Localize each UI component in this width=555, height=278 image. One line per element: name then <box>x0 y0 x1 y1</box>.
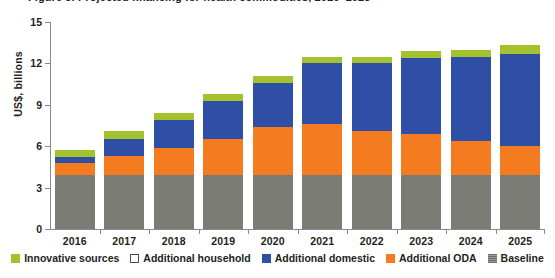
x-tick-mark <box>544 229 545 234</box>
x-tick-label: 2019 <box>199 235 249 247</box>
x-tick-label: 2022 <box>347 235 397 247</box>
y-tick-label: 15 <box>30 16 42 28</box>
chart-legend: Innovative sourcesAdditional householdAd… <box>0 252 555 264</box>
bar-2022[interactable] <box>352 57 392 230</box>
bar-segment-baseline <box>203 175 243 229</box>
bar-segment-baseline <box>302 175 342 229</box>
bar-segment-innovative-sources <box>154 113 194 120</box>
y-tick-label: 6 <box>36 140 42 152</box>
bar-segment-additional-oda <box>451 141 491 176</box>
x-tick-label: 2020 <box>248 235 298 247</box>
bar-segment-baseline <box>154 175 194 229</box>
bar-segment-innovative-sources <box>253 76 293 83</box>
legend-label: Additional domestic <box>275 252 375 264</box>
legend-label: Additional household <box>143 252 250 264</box>
bar-segment-baseline <box>253 175 293 229</box>
bar-segment-additional-domestic <box>352 63 392 131</box>
x-tick-mark <box>248 229 249 234</box>
bar-segment-baseline <box>104 175 144 229</box>
legend-swatch-icon <box>488 254 497 263</box>
x-tick-mark <box>100 229 101 234</box>
y-tick-mark <box>45 105 50 106</box>
bar-2021[interactable] <box>302 57 342 230</box>
y-tick-mark <box>45 22 50 23</box>
legend-item-additional-household[interactable]: Additional household <box>130 252 250 264</box>
x-tick-mark <box>298 229 299 234</box>
legend-swatch-icon <box>262 254 271 263</box>
bar-segment-additional-domestic <box>500 54 540 146</box>
x-tick-mark <box>397 229 398 234</box>
bar-segment-additional-domestic <box>253 83 293 127</box>
x-tick-mark <box>149 229 150 234</box>
bar-segment-additional-oda <box>55 163 95 175</box>
bar-segment-baseline <box>500 175 540 229</box>
x-tick-label: 2021 <box>298 235 348 247</box>
bar-segment-innovative-sources <box>451 50 491 57</box>
y-tick-label: 0 <box>36 223 42 235</box>
legend-item-additional-domestic[interactable]: Additional domestic <box>262 252 375 264</box>
bar-segment-innovative-sources <box>352 57 392 64</box>
legend-item-additional-oda[interactable]: Additional ODA <box>386 252 477 264</box>
y-tick-mark <box>45 188 50 189</box>
x-tick-mark <box>347 229 348 234</box>
legend-swatch-icon <box>130 254 139 263</box>
stacked-bar-chart: US$, billions 03691215 20162017201820192… <box>0 0 555 248</box>
bar-segment-baseline <box>451 175 491 229</box>
bar-segment-additional-domestic <box>104 139 144 156</box>
legend-label: Innovative sources <box>24 252 119 264</box>
legend-label: Additional ODA <box>399 252 477 264</box>
bar-segment-innovative-sources <box>104 131 144 139</box>
bar-2019[interactable] <box>203 94 243 229</box>
bar-2017[interactable] <box>104 131 144 229</box>
bar-segment-baseline <box>401 175 441 229</box>
bar-segment-baseline <box>55 175 95 229</box>
y-tick-mark <box>45 229 50 230</box>
y-tick-mark <box>45 146 50 147</box>
bar-segment-innovative-sources <box>401 51 441 58</box>
bar-segment-innovative-sources <box>55 150 95 157</box>
x-tick-label: 2023 <box>397 235 447 247</box>
legend-label: Baseline <box>501 252 544 264</box>
x-tick-label: 2024 <box>446 235 496 247</box>
y-tick-label: 3 <box>36 182 42 194</box>
bar-segment-additional-oda <box>203 139 243 175</box>
bar-segment-additional-domestic <box>55 157 95 163</box>
bar-2018[interactable] <box>154 113 194 229</box>
bar-segment-additional-domestic <box>401 58 441 134</box>
y-tick-mark <box>45 63 50 64</box>
legend-item-baseline[interactable]: Baseline <box>488 252 544 264</box>
bar-segment-innovative-sources <box>302 57 342 64</box>
bar-2024[interactable] <box>451 50 491 229</box>
y-axis-line <box>50 22 51 229</box>
x-tick-mark <box>496 229 497 234</box>
bar-segment-innovative-sources <box>203 94 243 101</box>
bar-segment-additional-domestic <box>203 101 243 140</box>
bar-2025[interactable] <box>500 45 540 229</box>
bar-segment-additional-domestic <box>451 57 491 141</box>
bar-segment-additional-oda <box>154 148 194 176</box>
bar-segment-additional-oda <box>500 146 540 175</box>
bar-segment-additional-oda <box>302 124 342 175</box>
bar-segment-baseline <box>352 175 392 229</box>
bar-2016[interactable] <box>55 150 95 229</box>
x-tick-label: 2017 <box>100 235 150 247</box>
bar-segment-innovative-sources <box>500 45 540 53</box>
bar-segment-additional-domestic <box>302 63 342 124</box>
bar-segment-additional-oda <box>253 127 293 175</box>
plot-area: 03691215 2016201720182019202020212022202… <box>50 22 545 229</box>
legend-item-innovative-sources[interactable]: Innovative sources <box>11 252 119 264</box>
x-tick-mark <box>199 229 200 234</box>
x-tick-label: 2016 <box>50 235 100 247</box>
bar-segment-additional-oda <box>352 131 392 175</box>
x-tick-mark <box>446 229 447 234</box>
bar-segment-additional-oda <box>104 156 144 175</box>
legend-swatch-icon <box>11 254 20 263</box>
bar-segment-additional-domestic <box>154 120 194 148</box>
y-tick-label: 9 <box>36 99 42 111</box>
x-tick-label: 2018 <box>149 235 199 247</box>
y-axis-label: US$, billions <box>12 19 24 149</box>
bar-2020[interactable] <box>253 76 293 229</box>
bar-2023[interactable] <box>401 51 441 229</box>
x-tick-label: 2025 <box>496 235 546 247</box>
y-tick-label: 12 <box>30 57 42 69</box>
